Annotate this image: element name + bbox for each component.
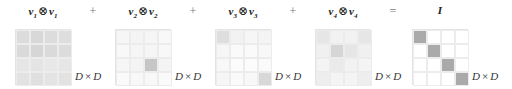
matrix-cell	[330, 30, 344, 44]
matrix-cell	[30, 44, 44, 58]
matrix-cell	[144, 72, 158, 86]
matrix-cell	[116, 44, 130, 58]
vector-index: 4	[333, 12, 337, 20]
matrix-cell	[344, 30, 358, 44]
dim-d: D	[93, 70, 101, 82]
times-icon: ×	[185, 70, 191, 82]
matrix-cell	[144, 44, 158, 58]
matrix-cell	[427, 44, 441, 58]
outer-product-icon: ⊗	[238, 4, 248, 18]
matrix-cell	[244, 72, 258, 86]
term-label-2: v2⊗v2	[103, 4, 183, 20]
matrix-identity	[412, 29, 468, 85]
times-icon: ×	[85, 70, 91, 82]
matrix-cell	[358, 30, 372, 44]
matrix-cell	[30, 72, 44, 86]
vector-index: 4	[354, 12, 358, 20]
matrix-cell	[427, 30, 441, 44]
dimension-label: D×D	[472, 70, 498, 82]
matrix-cell	[344, 72, 358, 86]
plus-operator: +	[86, 4, 100, 19]
matrix-cell	[116, 30, 130, 44]
outer-product-icon: ⊗	[38, 4, 48, 18]
matrix-cell	[130, 72, 144, 86]
matrix-cell	[230, 30, 244, 44]
matrix-cell	[258, 44, 272, 58]
times-icon: ×	[285, 70, 291, 82]
plus-operator: +	[286, 4, 300, 19]
vector-index: 1	[54, 12, 58, 20]
matrix-cell	[144, 58, 158, 72]
matrix-cell	[158, 72, 172, 86]
matrix-cell	[158, 30, 172, 44]
equals-operator: =	[386, 4, 400, 19]
matrix-cell	[230, 72, 244, 86]
matrix-cell	[116, 72, 130, 86]
matrix-v1-outer-v1	[15, 29, 71, 85]
dimension-label: D×D	[75, 70, 101, 82]
matrix-cell	[427, 58, 441, 72]
matrix-cell	[116, 58, 130, 72]
matrix-cell	[427, 72, 441, 86]
matrix-cell	[230, 58, 244, 72]
matrix-cell	[216, 58, 230, 72]
matrix-cell	[158, 44, 172, 58]
matrix-v4-outer-v4	[315, 29, 371, 85]
matrix-cell	[330, 72, 344, 86]
matrix-cell	[258, 72, 272, 86]
matrix-cell	[441, 58, 455, 72]
vector-index: 2	[133, 12, 137, 20]
dim-d: D	[393, 70, 401, 82]
matrix-cell	[216, 30, 230, 44]
times-icon: ×	[482, 70, 488, 82]
matrix-cell	[413, 30, 427, 44]
plus-operator: +	[186, 4, 200, 19]
times-icon: ×	[385, 70, 391, 82]
dim-d: D	[275, 70, 283, 82]
matrix-cell	[144, 30, 158, 44]
matrix-cell	[455, 58, 469, 72]
dim-d: D	[293, 70, 301, 82]
dim-d: D	[490, 70, 498, 82]
matrix-cell	[16, 72, 30, 86]
matrix-cell	[358, 44, 372, 58]
matrix-cell	[441, 30, 455, 44]
dim-d: D	[75, 70, 83, 82]
matrix-cell	[30, 30, 44, 44]
matrix-cell	[16, 30, 30, 44]
dim-d: D	[375, 70, 383, 82]
matrix-cell	[216, 72, 230, 86]
matrix-cell	[44, 72, 58, 86]
matrix-cell	[344, 44, 358, 58]
identity-label: I	[400, 4, 480, 16]
matrix-cell	[216, 44, 230, 58]
matrix-cell	[358, 72, 372, 86]
matrix-cell	[16, 58, 30, 72]
dimension-label: D×D	[275, 70, 301, 82]
vector-index: 2	[154, 12, 158, 20]
dimension-label: D×D	[375, 70, 401, 82]
matrix-cell	[30, 58, 44, 72]
term-label-3: v3⊗v3	[203, 4, 283, 20]
matrix-cell	[44, 44, 58, 58]
dim-d: D	[472, 70, 480, 82]
matrix-cell	[358, 58, 372, 72]
matrix-cell	[330, 58, 344, 72]
matrix-cell	[44, 58, 58, 72]
matrix-cell	[258, 30, 272, 44]
matrix-cell	[258, 58, 272, 72]
matrix-v2-outer-v2	[115, 29, 171, 85]
vector-index: 3	[233, 12, 237, 20]
matrix-cell	[316, 72, 330, 86]
matrix-cell	[413, 58, 427, 72]
matrix-cell	[130, 58, 144, 72]
matrix-cell	[16, 44, 30, 58]
matrix-cell	[58, 44, 72, 58]
dim-d: D	[193, 70, 201, 82]
matrix-cell	[344, 58, 358, 72]
matrix-cell	[413, 44, 427, 58]
matrix-cell	[455, 72, 469, 86]
term-label-4: v4⊗v4	[303, 4, 383, 20]
matrix-cell	[44, 30, 58, 44]
matrix-cell	[441, 44, 455, 58]
